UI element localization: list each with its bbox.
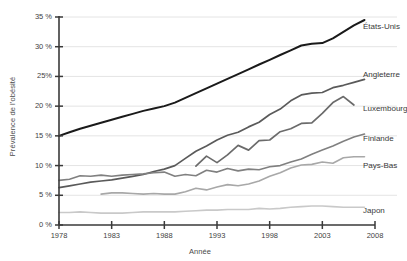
x-tick-label: 2003 [302, 231, 342, 240]
series-label-angleterre: Angleterre [363, 70, 400, 79]
y-tick-label: 0 % [18, 220, 52, 229]
y-tick-label: 10 % [18, 161, 52, 170]
x-tick-label: 1998 [250, 231, 290, 240]
series-line-2 [196, 97, 354, 167]
series-line-0 [59, 20, 365, 136]
y-tick-label: 15 % [18, 131, 52, 140]
y-tick-label: 20 % [18, 101, 52, 110]
series-lines [59, 20, 365, 213]
x-tick-label: 1978 [39, 231, 79, 240]
series-label--tats-unis: États-Unis [363, 22, 400, 31]
series-line-3 [59, 134, 365, 180]
series-label-japon: Japon [363, 206, 385, 215]
x-axis-title: Année [150, 247, 250, 256]
y-tick-label: 25% [18, 71, 52, 80]
y-axis-title: Prévalence de l'obésité [8, 74, 17, 160]
x-tick-label: 1983 [92, 231, 132, 240]
y-tick-label: 30 % [18, 42, 52, 51]
y-tick-label: 5 % [18, 190, 52, 199]
series-label-pays-bas: Pays-Bas [363, 161, 397, 170]
y-tick-label: 35 % [18, 12, 52, 21]
series-label-luxembourg: Luxembourg [363, 104, 407, 113]
series-line-5 [59, 206, 365, 213]
x-tick-label: 1988 [144, 231, 184, 240]
x-tick-label: 1993 [197, 231, 237, 240]
x-tick-label: 2008 [355, 231, 395, 240]
series-label-finlande: Finlande [363, 134, 394, 143]
